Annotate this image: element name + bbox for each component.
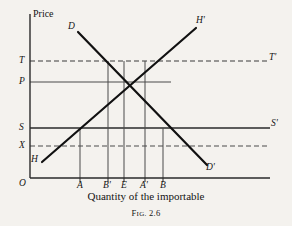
y-tick-label-T: T [19,56,24,66]
origin-label: O [19,179,26,189]
figure-number-value: 2.6 [149,208,161,218]
demand-curve [78,32,207,165]
line-label-T-prime: T' [269,53,276,63]
y-tick-label-S: S [19,123,24,133]
y-tick-label-X: X [19,141,25,151]
y-axis-title: Price [33,8,54,19]
figure-number-rest: IG. [137,210,147,218]
y-tick-label-P: P [19,77,25,87]
curve-label-D-prime: D' [206,163,215,173]
line-label-S-prime: S' [271,119,278,129]
curve-label-H: H [31,155,38,165]
curve-label-H-prime: H' [196,16,205,26]
figure-number: FIG. 2.6 [0,208,292,218]
supply-curve [42,28,196,162]
curve-label-D: D [68,22,75,32]
figure-caption: Quantity of the importable [0,190,292,202]
